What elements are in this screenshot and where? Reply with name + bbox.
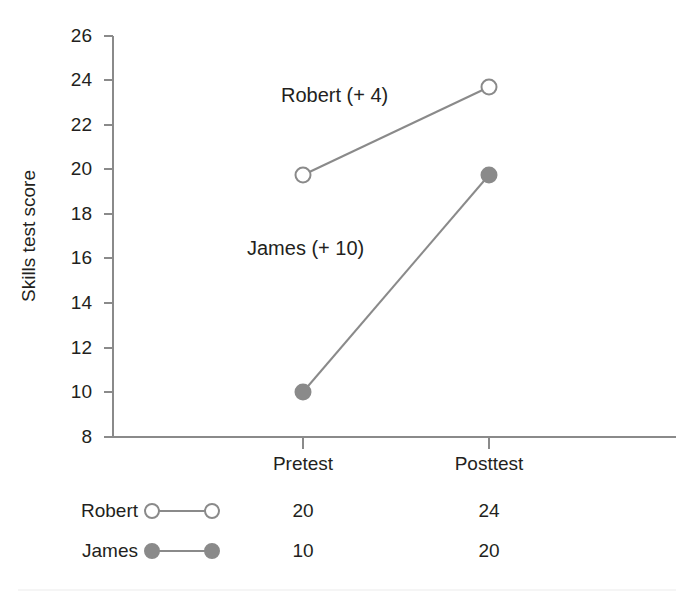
y-tick-label-26: 26	[46, 26, 92, 45]
y-tick-label-14: 14	[46, 293, 92, 312]
y-axis-ticks	[104, 36, 113, 437]
annotation-james: James (+ 10)	[247, 237, 364, 260]
legend-value-james-posttest: 20	[429, 540, 549, 562]
data-point-james-pretest	[296, 385, 311, 400]
y-tick-label-16: 16	[46, 248, 92, 267]
legend-value-james-pretest: 10	[243, 540, 363, 562]
data-point-robert-posttest	[482, 80, 497, 95]
legend-value-robert-posttest: 24	[429, 500, 549, 522]
annotation-robert: Robert (+ 4)	[281, 84, 388, 107]
y-tick-label-24: 24	[46, 70, 92, 89]
x-tick-label-pretest: Pretest	[223, 453, 383, 475]
legend-row-label-james: James	[18, 540, 138, 562]
x-tick-label-posttest: Posttest	[409, 453, 569, 475]
y-tick-label-10: 10	[46, 382, 92, 401]
legend-marker-james	[145, 544, 219, 558]
y-tick-label-20: 20	[46, 159, 92, 178]
data-point-robert-pretest	[296, 168, 311, 183]
y-tick-label-22: 22	[46, 115, 92, 134]
legend-row-label-robert: Robert	[18, 500, 138, 522]
y-tick-label-12: 12	[46, 338, 92, 357]
y-axis-title: Skills test score	[18, 121, 40, 351]
x-axis-ticks	[303, 437, 489, 449]
y-tick-label-18: 18	[46, 204, 92, 223]
series-line-james	[303, 175, 489, 392]
data-point-james-posttest	[482, 168, 497, 183]
legend-marker-robert	[145, 504, 219, 518]
y-tick-label-8: 8	[46, 427, 92, 446]
legend-value-robert-pretest: 20	[243, 500, 363, 522]
chart-figure: Skills test score 26 24 22 20 18 16 14 1…	[0, 0, 692, 601]
